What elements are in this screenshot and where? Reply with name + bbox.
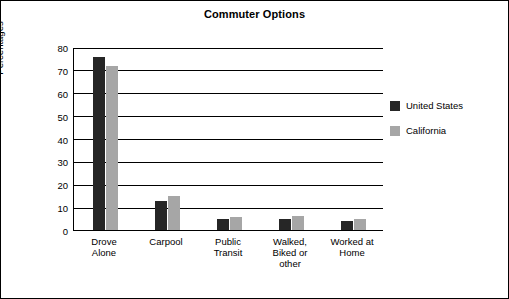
legend-swatch-icon bbox=[390, 101, 400, 111]
x-category-label-line: Home bbox=[311, 247, 393, 258]
y-tick-label: 20 bbox=[57, 180, 68, 191]
y-tick-label: 10 bbox=[57, 203, 68, 214]
bar-group bbox=[74, 47, 136, 230]
legend-swatch-icon bbox=[390, 126, 400, 136]
x-category-label-line: Alone bbox=[63, 247, 145, 258]
bar bbox=[168, 196, 180, 230]
x-category-label: Worked atHome bbox=[311, 236, 393, 258]
y-tick-label: 80 bbox=[57, 43, 68, 54]
bar-group bbox=[260, 47, 322, 230]
legend-item: United States bbox=[390, 100, 463, 111]
y-tick-label: 40 bbox=[57, 134, 68, 145]
bar-group bbox=[198, 47, 260, 230]
y-tick-label: 70 bbox=[57, 65, 68, 76]
chart-legend: United StatesCalifornia bbox=[390, 100, 463, 150]
y-tick-label: 30 bbox=[57, 157, 68, 168]
bar bbox=[341, 221, 353, 230]
legend-item: California bbox=[390, 125, 463, 136]
bar-group bbox=[136, 47, 198, 230]
y-tick-label: 50 bbox=[57, 111, 68, 122]
bar-group bbox=[322, 47, 384, 230]
x-category-label-line: other bbox=[249, 258, 331, 269]
x-category-label-line: Worked at bbox=[311, 236, 393, 247]
bar bbox=[279, 219, 291, 230]
legend-label: United States bbox=[406, 100, 463, 111]
bar bbox=[106, 66, 118, 230]
legend-label: California bbox=[406, 125, 446, 136]
y-tick-label: 60 bbox=[57, 88, 68, 99]
bar bbox=[354, 219, 366, 230]
y-tick-label: 0 bbox=[63, 226, 68, 237]
plot-area bbox=[73, 48, 383, 231]
bar bbox=[230, 217, 242, 230]
y-axis-tick-labels: 01020304050607080 bbox=[40, 48, 68, 231]
chart-title: Commuter Options bbox=[0, 8, 509, 20]
bar bbox=[155, 201, 167, 230]
bar bbox=[292, 216, 304, 230]
bar bbox=[93, 57, 105, 230]
bar bbox=[217, 219, 229, 230]
y-axis-title: Percentages bbox=[0, 0, 5, 108]
